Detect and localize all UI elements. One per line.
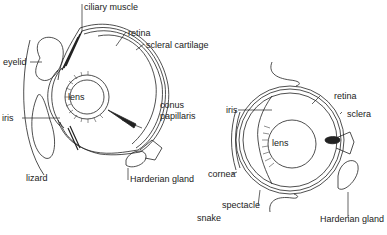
label-lizard-retina: retina [128, 28, 151, 38]
label-snake-lens: lens [272, 138, 289, 148]
label-snake-harderian-gland: Harderian gland [320, 214, 384, 224]
label-lizard-iris: iris [2, 113, 14, 123]
label-lizard-lens: lens [68, 92, 85, 102]
label-conus-1: conus [160, 100, 184, 110]
lizard-lower-eyelid [32, 95, 55, 159]
label-conus-2: papillaris [160, 111, 196, 121]
label-snake-iris: iris [226, 105, 238, 115]
caption-lizard: lizard [26, 173, 48, 183]
conus-papillaris [108, 110, 136, 128]
snake-dark-spot [325, 137, 340, 144]
eye-comparison-diagram: ciliary muscle retina scleral cartilage … [0, 0, 387, 235]
snake-skin-bottom [270, 194, 298, 212]
caption-snake: snake [197, 213, 221, 223]
label-ciliary-muscle: ciliary muscle [84, 2, 138, 12]
snake-eye [232, 62, 359, 212]
label-cornea: cornea [208, 169, 236, 179]
label-lizard-harderian-gland: Harderian gland [130, 174, 194, 184]
snake-skin-top [271, 62, 299, 86]
label-sclera: sclera [347, 109, 371, 119]
snake-harderian-gland [338, 161, 358, 190]
label-spectacle: spectacle [222, 200, 260, 210]
label-snake-retina: retina [334, 91, 357, 101]
label-scleral-cartilage: scleral cartilage [146, 40, 209, 50]
snake-retina [243, 93, 337, 187]
lizard-retina [98, 35, 156, 144]
label-eyelid: eyelid [3, 57, 27, 67]
lizard-cornea [52, 68, 64, 128]
